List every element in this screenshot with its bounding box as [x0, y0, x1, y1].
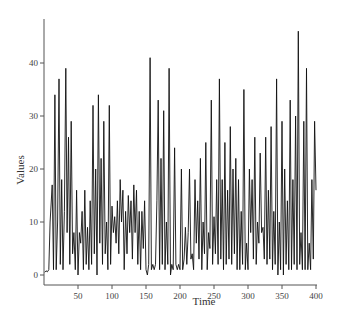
x-axis-title: Time	[193, 295, 216, 307]
series-line	[45, 31, 316, 275]
y-tick-label: 40	[29, 58, 39, 68]
y-tick-label: 0	[34, 270, 39, 280]
plot-area	[45, 31, 316, 275]
x-tick-label: 350	[275, 291, 289, 301]
x-tick-label: 400	[309, 291, 323, 301]
y-axis: 010203040 Values	[14, 19, 44, 285]
y-tick-label: 10	[29, 217, 39, 227]
y-axis-title: Values	[14, 155, 26, 184]
y-tick-label: 20	[29, 164, 39, 174]
y-tick-label: 30	[29, 111, 39, 121]
x-axis: 50100150200250300350400 Time	[44, 285, 323, 307]
x-tick-label: 150	[139, 291, 153, 301]
x-tick-label: 200	[173, 291, 187, 301]
time-series-chart: 010203040 Values 50100150200250300350400…	[0, 0, 342, 327]
x-tick-label: 300	[241, 291, 255, 301]
x-tick-label: 100	[105, 291, 119, 301]
x-tick-label: 50	[74, 291, 84, 301]
